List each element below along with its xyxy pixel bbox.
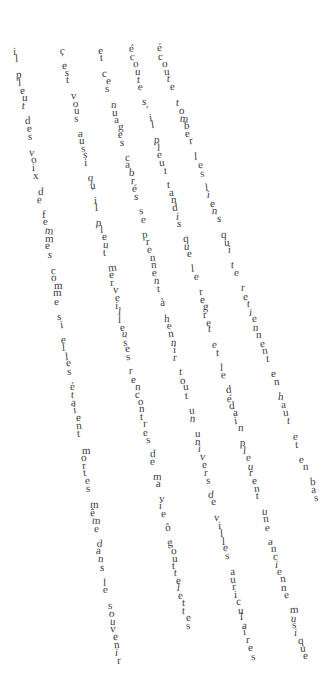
glyph: r [188, 135, 193, 146]
poem-canvas: il pleut des voix de femmes comme si ell… [0, 0, 325, 687]
glyph: t [295, 439, 299, 450]
glyph: i [228, 244, 232, 255]
glyph: s [313, 491, 318, 502]
glyph: s [217, 212, 222, 223]
glyph: t [265, 353, 269, 364]
glyph: n [303, 461, 309, 472]
glyph: n [273, 375, 280, 386]
glyph: e [233, 267, 239, 278]
glyph: l [193, 151, 197, 162]
rain-line-5: écoute tomber les liens qui te retiennen… [0, 0, 325, 687]
glyph: e [169, 81, 174, 92]
glyph: s [200, 167, 206, 178]
glyph: t [286, 415, 290, 426]
